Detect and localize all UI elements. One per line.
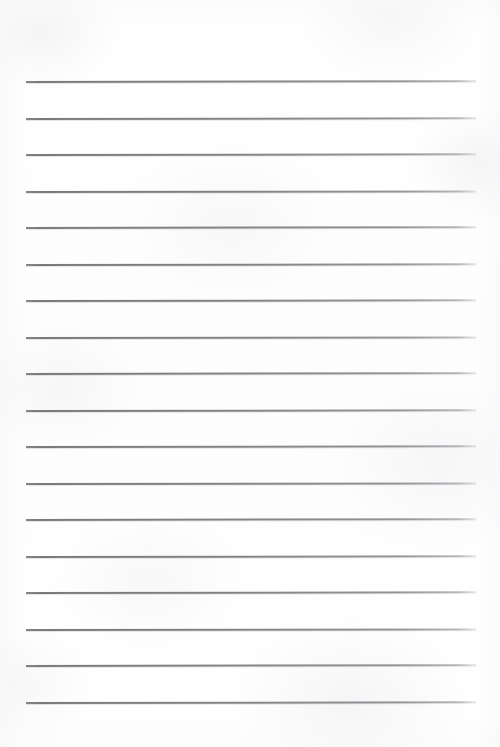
ruled-line — [26, 518, 476, 520]
ruled-line — [26, 117, 476, 119]
ruled-line — [26, 226, 476, 228]
ruled-line — [26, 409, 476, 411]
ruled-line — [26, 372, 476, 374]
ruled-line — [26, 664, 476, 666]
ruled-line — [26, 153, 476, 155]
ruled-line — [26, 80, 476, 82]
ruled-line — [26, 482, 476, 484]
ruled-lines-group — [0, 0, 500, 747]
lined-paper-page — [0, 0, 500, 747]
ruled-line — [26, 591, 476, 593]
ruled-line — [26, 336, 476, 338]
ruled-line — [26, 263, 476, 265]
ruled-line — [26, 555, 476, 557]
ruled-line — [26, 190, 476, 192]
ruled-line — [26, 445, 476, 447]
ruled-line — [26, 628, 476, 630]
ruled-line — [26, 701, 476, 703]
ruled-line — [26, 299, 476, 301]
